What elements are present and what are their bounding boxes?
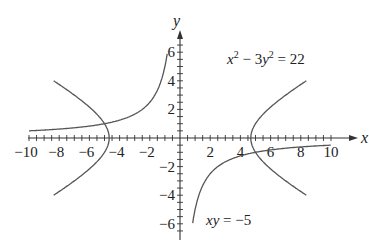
y-axis-arrow-icon: [177, 30, 183, 39]
x-tick-label: 10: [324, 144, 339, 160]
y-tick-label: 2: [168, 101, 176, 117]
y-axis-label: y: [171, 12, 181, 30]
y-tick-label: −4: [159, 187, 175, 203]
y-tick-label: 6: [168, 44, 176, 60]
x-tick-label: 2: [206, 144, 214, 160]
x-tick-labels: −10−8−6−4−2246810: [14, 144, 338, 160]
x-tick-label: 4: [237, 144, 245, 160]
x-tick-label: −6: [78, 144, 94, 160]
xy-curve-branch-left: [29, 54, 167, 131]
y-tick-label: 4: [168, 73, 176, 89]
x-tick-label: −4: [109, 144, 125, 160]
x-tick-label: −2: [139, 144, 155, 160]
x-tick-label: −8: [48, 144, 64, 160]
x-tick-label: 6: [267, 144, 275, 160]
equation-label-hyperbola: x2 − 3y2 = 22: [226, 49, 305, 67]
y-tick-label: −6: [159, 216, 175, 232]
equation-label-xy: xy = −5: [205, 212, 251, 228]
x-axis-arrow-icon: [349, 135, 358, 141]
y-tick-label: −2: [159, 159, 175, 175]
x-tick-label: −10: [14, 144, 37, 160]
x-axis-label: x: [360, 129, 368, 146]
graph: x y −10−8−6−4−2246810 642−2−4−6 x2 − 3y2…: [0, 0, 369, 251]
